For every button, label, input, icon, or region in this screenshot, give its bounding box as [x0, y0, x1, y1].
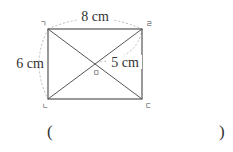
vertex-label-top-right: ㄹ [146, 20, 152, 28]
answer-open-paren: ( [47, 122, 53, 142]
vertex-label-top-left: ㄱ [40, 20, 46, 28]
left-length-label: 6 cm [16, 56, 44, 71]
half-diagonal-label: 5 cm [111, 55, 139, 70]
vertex-label-center: ㅁ [93, 69, 99, 77]
top-length-label: 8 cm [81, 9, 109, 24]
vertex-label-bottom-left: ㄴ [42, 102, 48, 110]
vertex-label-bottom-right: ㄷ [145, 102, 151, 110]
answer-close-paren: ) [219, 122, 225, 142]
answer-blank[interactable] [60, 124, 220, 142]
